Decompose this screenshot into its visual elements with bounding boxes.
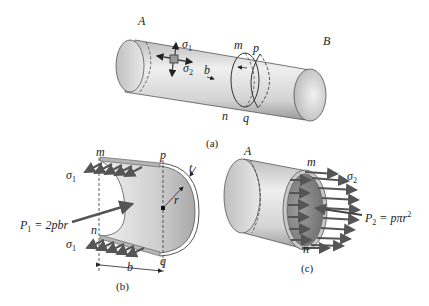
label-p1-equation: P1 = 2pbr [19, 218, 68, 234]
label-sigma1: σ1 [182, 37, 192, 53]
label-r: r [174, 193, 179, 207]
label-m: m [307, 155, 316, 169]
label-q: q [160, 254, 166, 268]
label-p2-equation: P2 = pπr2 [364, 210, 411, 227]
label-n: n [91, 223, 97, 237]
caption-a: (a) [206, 137, 219, 150]
label-q: q [243, 111, 249, 125]
label-sigma1-top: σ1 [66, 168, 76, 184]
label-A: A [137, 14, 146, 28]
label-sigma2: σ2 [347, 169, 357, 185]
panel-b: m p n q r t b σ1 σ1 P1 = 2pbr (b) [19, 145, 199, 293]
cylinder-left-end [116, 40, 144, 92]
label-b: b [127, 260, 133, 274]
label-m: m [234, 38, 243, 52]
stress-element [170, 55, 178, 63]
label-n: n [222, 109, 228, 123]
caption-c: (c) [301, 262, 314, 275]
cylinder-right-opening [294, 69, 326, 121]
label-b: b [204, 63, 210, 77]
cylinder-c-face-inner [287, 174, 323, 246]
cylinder-body [125, 40, 310, 120]
caption-b: (b) [116, 280, 129, 293]
label-B: B [323, 34, 331, 48]
label-sigma1-bottom: σ1 [66, 237, 76, 253]
p1-force-arrow [72, 204, 132, 222]
pressure-vessel-figure: A B m p n q b σ1 σ2 (a) [0, 0, 429, 306]
panel-a: A B m p n q b σ1 σ2 (a) [116, 14, 331, 150]
label-p: p [159, 148, 166, 162]
label-m: m [96, 145, 105, 159]
label-p: p [252, 41, 259, 55]
panel-c: A m n σ2 P2 = pπr2 (c) [224, 144, 411, 275]
label-n: n [303, 242, 309, 256]
label-A: A [243, 144, 252, 158]
